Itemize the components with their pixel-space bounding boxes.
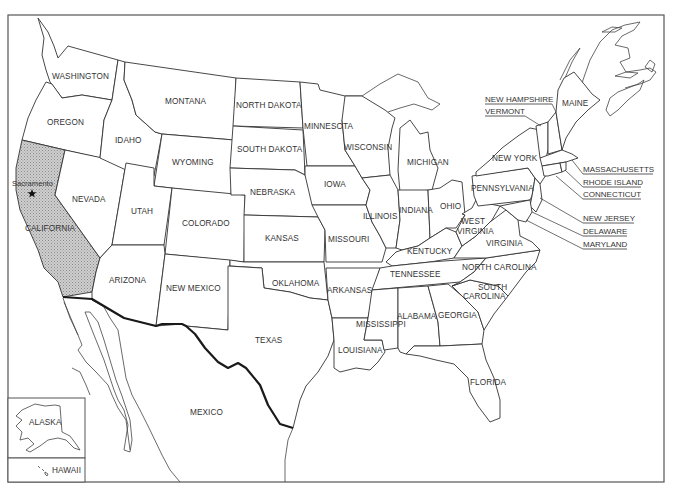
label-colorado: COLORADO: [182, 219, 230, 228]
label-tennessee: TENNESSEE: [390, 270, 441, 279]
callout-vermont: VERMONT: [485, 107, 525, 116]
label-arizona: ARIZONA: [109, 276, 147, 285]
inset-alaska: ALASKA: [8, 398, 85, 458]
label-maine: MAINE: [562, 99, 589, 108]
label-nevada: NEVADA: [72, 195, 106, 204]
label-minnesota: MINNESOTA: [304, 122, 353, 131]
label-louisiana: LOUISIANA: [338, 346, 383, 355]
label-missouri: MISSOURI: [328, 235, 369, 244]
us-outline-map: ALASKA HAWAII: [0, 0, 674, 488]
label-west-virginia-2: VIRGINIA: [457, 227, 494, 236]
callouts-left: NEW HAMPSHIRE VERMONT: [485, 95, 556, 126]
callout-connecticut: CONNECTICUT: [583, 190, 641, 199]
state-michigan-lower: [398, 120, 438, 192]
label-nebraska: NEBRASKA: [250, 188, 296, 197]
label-hawaii: HAWAII: [52, 466, 81, 475]
inset-hawaii: HAWAII: [8, 458, 85, 482]
callout-new-hampshire: NEW HAMPSHIRE: [485, 95, 553, 104]
state-maine: [556, 72, 600, 150]
label-montana: MONTANA: [165, 97, 206, 106]
label-oklahoma: OKLAHOMA: [272, 279, 320, 288]
label-california: CALIFORNIA: [25, 224, 76, 233]
label-florida: FLORIDA: [470, 378, 507, 387]
label-texas: TEXAS: [255, 336, 283, 345]
label-west-virginia-1: WEST: [461, 217, 485, 226]
callout-massachusetts: MASSACHUSETTS: [583, 165, 654, 174]
callout-new-jersey: NEW JERSEY: [583, 214, 636, 223]
label-mexico: MEXICO: [190, 408, 223, 417]
label-illinois: ILLINOIS: [363, 212, 398, 221]
label-wisconsin: WISCONSIN: [344, 143, 392, 152]
label-georgia: GEORGIA: [438, 311, 477, 320]
label-kansas: KANSAS: [265, 234, 299, 243]
label-arkansas: ARKANSAS: [327, 286, 373, 295]
label-iowa: IOWA: [324, 180, 346, 189]
label-north-carolina: NORTH CAROLINA: [462, 263, 537, 272]
callout-maryland: MARYLAND: [583, 240, 628, 249]
label-pennsylvania: PENNSYLVANIA: [471, 184, 534, 193]
label-oregon: OREGON: [47, 118, 84, 127]
label-michigan: MICHIGAN: [407, 158, 449, 167]
state-arizona: [92, 245, 165, 326]
label-virginia: VIRGINIA: [486, 239, 523, 248]
city-label-sacramento: Sacramento: [12, 179, 53, 188]
label-south-carolina-1: SOUTH: [478, 283, 507, 292]
label-new-mexico: NEW MEXICO: [166, 284, 221, 293]
label-idaho: IDAHO: [115, 136, 141, 145]
label-alaska: ALASKA: [29, 418, 62, 427]
label-indiana: INDIANA: [399, 206, 433, 215]
label-north-dakota: NORTH DAKOTA: [236, 101, 302, 110]
label-washington: WASHINGTON: [52, 72, 109, 81]
label-ohio: OHIO: [440, 202, 461, 211]
label-south-carolina-2: CAROLINA: [463, 292, 506, 301]
label-kentucky: KENTUCKY: [407, 247, 453, 256]
label-wyoming: WYOMING: [172, 158, 214, 167]
label-south-dakota: SOUTH DAKOTA: [237, 145, 303, 154]
label-mississippi: MISSISSIPPI: [356, 320, 406, 329]
label-new-york: NEW YORK: [492, 154, 538, 163]
label-alabama: ALABAMA: [397, 312, 437, 321]
callout-delaware: DELAWARE: [583, 227, 627, 236]
label-utah: UTAH: [131, 207, 153, 216]
callout-rhode-island: RHODE ISLAND: [583, 178, 643, 187]
